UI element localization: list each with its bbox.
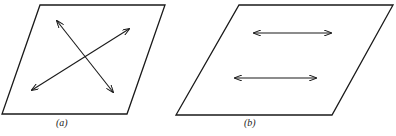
panel-b: [176, 5, 393, 115]
plane-a: [2, 5, 165, 114]
panel-a: [2, 5, 165, 114]
panel-b-label: (b): [244, 117, 256, 128]
plane-b: [176, 5, 393, 115]
arrow-a2: [32, 29, 129, 90]
diagram-canvas: [0, 0, 396, 136]
panel-a-label: (a): [56, 117, 68, 128]
